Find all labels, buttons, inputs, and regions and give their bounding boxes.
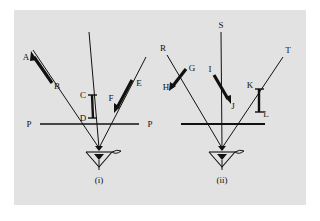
figure-canvas: P P A B C D E F (i): [0, 0, 320, 221]
plane-label-left-i: P: [26, 119, 31, 129]
label-c-i: C: [80, 90, 86, 100]
label-h-ii: H: [163, 82, 170, 92]
optics-diagram-svg: P P A B C D E F (i): [0, 0, 320, 221]
plane-label-right-i: P: [147, 119, 152, 129]
caption-ii: (ii): [217, 175, 228, 185]
label-d-i: D: [80, 113, 87, 123]
label-e-i: E: [136, 78, 142, 88]
diagram-ii-group: G H R I J S K L T (ii): [160, 20, 291, 185]
label-r-ii: R: [160, 43, 166, 53]
segment-ab-arrowhead-i: [30, 51, 37, 61]
label-b-i: B: [54, 81, 60, 91]
diagram-i-group: P P A B C D E F (i): [23, 32, 153, 185]
label-l-ii: L: [263, 109, 269, 119]
ray-right-line-i: [99, 57, 146, 148]
label-s-ii: S: [218, 20, 223, 30]
label-i-ii: I: [209, 64, 212, 74]
ray-left-line-i: [33, 50, 99, 148]
label-g-ii: G: [189, 63, 196, 73]
label-k-ii: K: [247, 80, 254, 90]
caption-i: (i): [95, 175, 104, 185]
label-j-ii: J: [231, 101, 235, 111]
eye-icon-i: [86, 146, 121, 170]
segment-ab-i: [34, 57, 52, 83]
ray-center-line-i: [89, 32, 99, 148]
label-t-ii: T: [285, 45, 291, 55]
label-a-i: A: [23, 52, 30, 62]
segment-cd-i: [92, 95, 93, 118]
eye-icon-ii: [209, 146, 244, 170]
label-f-i: F: [108, 93, 113, 103]
segment-ef-i: [117, 80, 132, 108]
